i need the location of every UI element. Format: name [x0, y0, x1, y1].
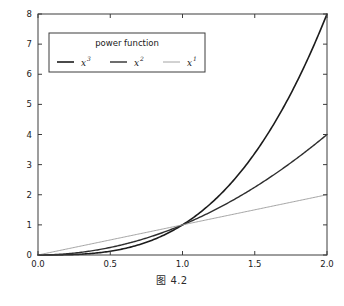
x-tick-label: 2.0	[320, 259, 334, 269]
chart-canvas: 0.00.51.01.52.0 012345678 power function…	[0, 0, 344, 306]
legend-label-x2: x	[134, 58, 139, 68]
y-tick-label: 5	[27, 99, 32, 109]
y-tick-label: 2	[27, 190, 32, 200]
y-tick-label: 7	[27, 39, 32, 49]
x-tick-label: 1.5	[248, 259, 262, 269]
x-tick-label: 0.5	[103, 259, 117, 269]
y-tick-label: 4	[27, 130, 32, 140]
y-tick-label: 0	[27, 250, 32, 260]
figure-caption: 图 4.2	[0, 272, 344, 287]
legend-label-exponent-x2: 2	[139, 55, 144, 62]
x-tick-label: 0.0	[31, 259, 45, 269]
legend-label-exponent-x3: 3	[87, 55, 91, 62]
x-tick-label: 1.0	[176, 259, 190, 269]
figure-container: 0.00.51.01.52.0 012345678 power function…	[0, 0, 344, 306]
y-tick-label: 8	[27, 9, 32, 19]
legend-label-x3: x	[81, 58, 86, 68]
y-tick-label: 6	[27, 69, 32, 79]
chart-legend: power function x3x2x1	[49, 33, 205, 72]
y-tick-label: 1	[27, 220, 32, 230]
legend-label-exponent-x1: 1	[193, 55, 197, 62]
y-tick-label: 3	[27, 160, 32, 170]
legend-label-x1: x	[187, 58, 192, 68]
legend-title: power function	[95, 38, 159, 48]
